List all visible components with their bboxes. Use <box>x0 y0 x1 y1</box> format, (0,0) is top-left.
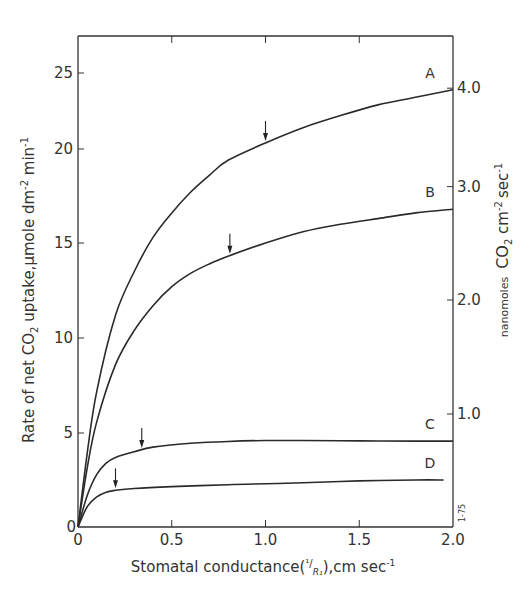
x-axis-title-sub: R₁ <box>313 567 323 577</box>
y2-axis-title-cm: cm <box>494 211 512 239</box>
series-label-b: B <box>425 184 435 200</box>
x-axis-title-sup: -1 <box>386 558 395 568</box>
x-axis-title: Stomatal conductance(¹/R₁),cm sec-1 <box>131 558 395 577</box>
x-tick-label: 1.5 <box>347 531 371 549</box>
y2-axis-title: nanomolesCO2 cm-2sec-1 <box>493 163 514 337</box>
y2-axis-title-sup1: -2 <box>493 201 504 211</box>
y-tick-label: 5 <box>63 424 73 442</box>
series-label-d: D <box>425 455 436 471</box>
y2-axis-title-sec: sec <box>494 173 512 198</box>
y-axis-title-pre: Rate of net CO <box>20 333 38 443</box>
y-axis-title-sup2: -1 <box>19 137 30 147</box>
x-axis-ticks: 00.51.01.52.0 <box>73 36 465 549</box>
x-axis-title-pre: Stomatal conductance( <box>131 558 306 576</box>
series-curve-b <box>78 209 453 527</box>
y-tick-label: 0 <box>66 518 76 536</box>
series-curves <box>78 90 453 527</box>
y-axis-title: Rate of net CO2 uptake,μmole dm-2 min-1 <box>19 137 40 443</box>
y-tick-label: 20 <box>54 140 73 158</box>
y2-axis-ticks: 1.02.03.04.0 <box>447 79 481 423</box>
y2-tick-label: 3.0 <box>457 178 481 196</box>
y2-axis-title-sup2: -1 <box>493 163 504 173</box>
y-axis-title-sup1: -2 <box>19 180 30 190</box>
series-arrows <box>113 121 268 488</box>
x-tick-label: 1.0 <box>254 531 278 549</box>
chart: 00.51.01.52.0 0510152025 1.02.03.04.0 AB… <box>0 0 530 597</box>
y-tick-label: 10 <box>54 329 73 347</box>
y-axis-title-mid: uptake,μmole dm <box>20 190 38 327</box>
plot-frame <box>78 36 453 527</box>
arrow-head-c <box>139 440 144 448</box>
x-axis-title-post: ),cm sec <box>323 558 387 576</box>
arrow-head-a <box>263 133 268 141</box>
y2-tick-label: 2.0 <box>457 291 481 309</box>
x-tick-label: 0.5 <box>160 531 184 549</box>
series-label-a: A <box>425 65 435 81</box>
figure-stamp: 1-75 <box>458 504 467 522</box>
series-curve-a <box>78 90 453 527</box>
y2-axis-title-small: nanomoles <box>498 277 511 338</box>
y-tick-label: 25 <box>54 64 73 82</box>
arrow-head-b <box>227 246 232 254</box>
y2-tick-label: 1.0 <box>457 405 481 423</box>
x-tick-label: 2.0 <box>441 531 465 549</box>
y2-axis-title-co: CO <box>493 245 512 269</box>
y-axis-ticks: 0510152025 <box>54 64 84 536</box>
y-axis-title-mid2: min <box>20 147 38 180</box>
series-curve-d <box>78 480 444 527</box>
arrow-head-d <box>113 480 118 488</box>
y2-tick-label: 4.0 <box>457 79 481 97</box>
y-tick-label: 15 <box>54 234 73 252</box>
series-label-c: C <box>425 416 435 432</box>
series-labels: ABCD <box>425 65 436 471</box>
